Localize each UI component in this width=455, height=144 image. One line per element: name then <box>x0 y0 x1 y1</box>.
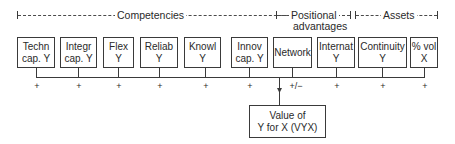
outcome-label-line1: Value of <box>270 110 306 122</box>
sign-pct-vol: + <box>417 81 433 91</box>
sign-internat: + <box>329 81 345 91</box>
sign-flex: + <box>111 81 127 91</box>
connector-lines <box>0 0 455 144</box>
outcome-label-line2: Y for X (VYX) <box>258 122 318 134</box>
sign-innov: + <box>242 81 258 91</box>
sign-knowl: + <box>198 81 214 91</box>
sign-techn: + <box>29 81 45 91</box>
sign-reliab: + <box>152 81 168 91</box>
sign-integr: + <box>71 81 87 91</box>
sign-network: +/− <box>286 81 306 91</box>
sign-continuity: + <box>375 81 391 91</box>
outcome-box-vyx: Value of Y for X (VYX) <box>249 105 326 138</box>
arrow-head-icon <box>277 88 282 93</box>
